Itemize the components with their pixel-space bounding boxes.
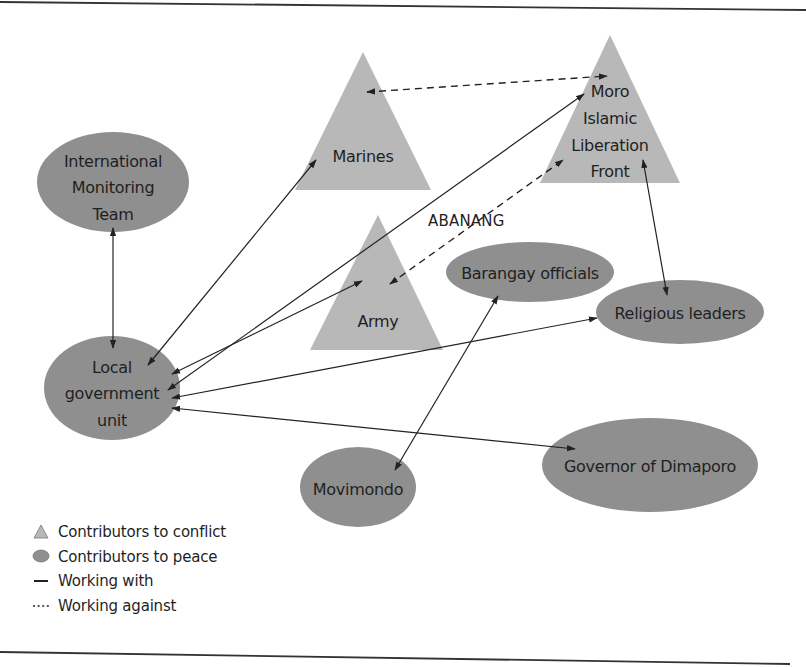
lgu-label-line-3: unit [97, 411, 127, 430]
milf-label-line-3: Liberation [571, 136, 648, 155]
religious-label: Religious leaders [615, 304, 746, 323]
legend: Contributors to conflict Contributors to… [33, 523, 226, 615]
legend-triangle-icon [34, 525, 48, 538]
marines-triangle [295, 52, 431, 190]
top-frame-rule [0, 2, 806, 10]
abanang-label: ABANANG [428, 212, 505, 230]
governor-label: Governor of Dimaporo [564, 457, 736, 476]
milf-label-line-4: Front [591, 162, 630, 181]
milf-label-line-1: Moro [591, 82, 629, 101]
bottom-frame-rule [0, 652, 790, 664]
army-label: Army [357, 312, 398, 331]
movimondo-label: Movimondo [313, 480, 403, 499]
edge-lgu-governor [172, 408, 575, 449]
milf-label-line-2: Islamic [583, 109, 637, 128]
legend-conflict-label: Contributors to conflict [58, 523, 226, 541]
legend-working-with-label: Working with [58, 572, 153, 590]
legend-ellipse-icon [33, 550, 49, 562]
lgu-label-line-2: government [65, 384, 160, 403]
legend-working-against-label: Working against [58, 597, 177, 615]
lgu-label-line-1: Local [92, 358, 132, 377]
legend-peace-label: Contributors to peace [58, 548, 217, 566]
barangay-label: Barangay officials [461, 264, 599, 283]
imt-label-line-1: International [64, 152, 162, 171]
edge-marines-milf [367, 76, 607, 92]
marines-label: Marines [333, 147, 394, 166]
imt-label-line-2: Monitoring [72, 178, 155, 197]
actor-relationship-diagram: Marines Moro Islamic Liberation Front Ar… [0, 0, 806, 667]
imt-label-line-3: Team [91, 205, 133, 224]
